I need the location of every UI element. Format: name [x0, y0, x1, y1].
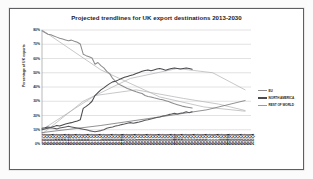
y-axis-tick-label: 50% [33, 71, 40, 75]
y-axis-tick-label: 40% [33, 85, 40, 89]
y-axis-title: Percentage of UK exports [22, 44, 26, 87]
y-axis-tick-label: 20% [33, 114, 40, 118]
chart-title: Projected trendlines for UK export desti… [10, 14, 303, 21]
screenshot-root: Projected trendlines for UK export desti… [0, 0, 313, 179]
y-axis-tick-label: 0% [35, 142, 40, 146]
y-axis-tick-label: 80% [33, 28, 40, 32]
chart-frame: Projected trendlines for UK export desti… [9, 8, 304, 170]
chart-legend: EUNORTH AMERICAREST OF WORLD [258, 87, 304, 109]
chart-canvas: Projected trendlines for UK export desti… [10, 9, 303, 169]
legend-item-label: REST OF WORLD [269, 103, 294, 107]
legend-color-swatch [258, 97, 267, 98]
y-axis-tick-label: 70% [33, 42, 40, 46]
legend-color-swatch [258, 90, 267, 91]
plot-svg [42, 30, 251, 144]
trendline-group [42, 30, 245, 134]
legend-item[interactable]: EU [258, 87, 304, 94]
legend-item-label: NORTH AMERICA [269, 96, 295, 100]
plot-area: 80%70%60%50%40%30%20%10%0% [42, 30, 251, 144]
x-axis-tick-labels: 2013 Q12013 Q22013 Q32013 Q42014 Q12014 … [42, 145, 251, 169]
y-axis-tick-label: 30% [33, 99, 40, 103]
y-axis-tick-label: 60% [33, 57, 40, 61]
y-axis-tick-label: 10% [33, 128, 40, 132]
legend-color-swatch [258, 105, 267, 106]
legend-item[interactable]: NORTH AMERICA [258, 94, 304, 101]
trendline [42, 90, 245, 130]
x-axis-tick-label: 2030 Q4 [251, 134, 255, 145]
trendline [42, 101, 245, 133]
legend-item[interactable]: REST OF WORLD [258, 102, 304, 109]
legend-item-label: EU [269, 89, 273, 93]
